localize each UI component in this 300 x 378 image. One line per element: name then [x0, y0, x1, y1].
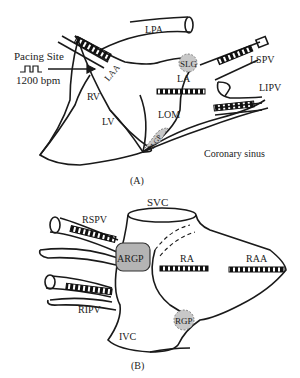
argp-label: ARGP [117, 253, 144, 264]
coronary-sinus-label: Coronary sinus [204, 148, 265, 159]
lv-label: LV [102, 116, 115, 127]
lspv-label: LSPV [250, 54, 275, 65]
ripv-label: RIPV [78, 304, 102, 315]
laa-label: LAA [102, 62, 122, 83]
lpa-label: LPA [145, 24, 164, 35]
rspv-label: RSPV [82, 214, 108, 225]
pacing-site-label: Pacing Site [14, 50, 64, 62]
ivc-label: IVC [119, 331, 137, 342]
slgp-label: SLG [180, 59, 198, 69]
panel-b-caption: (B) [131, 360, 144, 372]
rv-label: RV [87, 91, 101, 102]
rgp-label: RGP [175, 316, 193, 326]
lipv-label: LIPV [259, 82, 282, 93]
lom-label: LOM [158, 109, 180, 120]
la-label: LA [177, 73, 191, 84]
pacing-rate-label: 1200 bpm [16, 74, 61, 86]
raa-label: RAA [246, 253, 268, 264]
pacing-indicator [20, 65, 95, 73]
diagram-canvas: Pacing Site 1200 bpm LPA LAA RV LV LA LO… [0, 0, 300, 378]
svc-label: SVC [147, 196, 168, 208]
panel-a-caption: (A) [130, 175, 144, 187]
ra-label: RA [180, 253, 195, 264]
